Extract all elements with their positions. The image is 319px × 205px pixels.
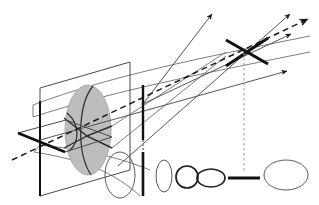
spot-tall-ellipse-2: [156, 160, 172, 192]
spot-wide-ellipse-large: [264, 160, 308, 190]
ray-chief-axis: [143, 34, 291, 104]
spot-circle: [176, 166, 198, 188]
lens-sphere: [65, 85, 111, 175]
optical-ray-diagram-figure: [0, 0, 319, 205]
spot-tall-ellipse-1: [105, 152, 135, 198]
diagram-canvas: [0, 0, 319, 205]
horizontal-plane-front-edge-bar: [18, 133, 65, 152]
ray-marginal-upper-to-arrow1: [143, 14, 212, 104]
spot-wide-ellipse-small: [197, 169, 225, 187]
spot-sequence-group: [105, 152, 308, 198]
